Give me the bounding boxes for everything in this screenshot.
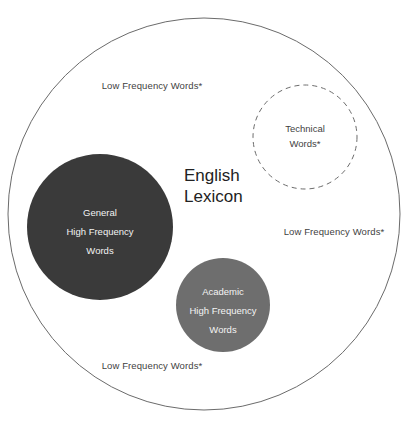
venn-shapes xyxy=(0,0,414,437)
filled-circle-general-high-frequency-words xyxy=(27,154,173,300)
lexicon-venn-diagram: Low Frequency Words* Low Frequency Words… xyxy=(0,0,414,437)
filled-circle-academic-high-frequency-words xyxy=(176,258,270,352)
